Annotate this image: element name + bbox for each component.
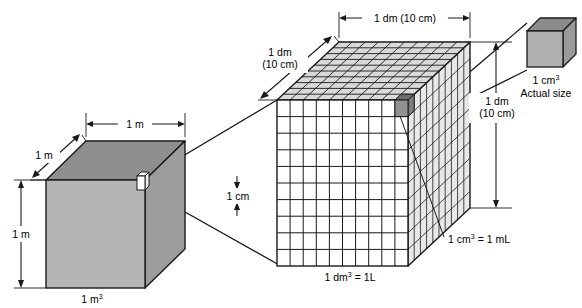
- meter-cube-width-dimension: 1 m: [86, 113, 185, 137]
- svg-text:1 cm3: 1 cm3: [533, 73, 560, 86]
- meter-cube-caption-text: 1 m: [81, 293, 99, 305]
- centimeter-cube-front-face: [527, 31, 563, 67]
- callout-text: 1 cm: [448, 233, 471, 245]
- figure-root: 1 m 1 m 1 m 1 m3: [0, 0, 582, 308]
- svg-text:1 dm3 = 1L: 1 dm3 = 1L: [325, 270, 376, 283]
- decimeter-cube-cell-label: 1 cm: [227, 190, 250, 202]
- meter-cube-front-face: [46, 180, 145, 288]
- meter-cube-sample-cube: [137, 172, 149, 190]
- decimeter-cube-width-dimension: 1 dm (10 cm): [339, 10, 470, 38]
- decimeter-cube-depth-label-line2: (10 cm): [262, 58, 298, 70]
- volume-units-diagram: 1 m 1 m 1 m 1 m3: [0, 0, 582, 308]
- meter-cube-height-dimension: 1 m: [5, 180, 46, 288]
- decimeter-cube-group: 1 dm (10 cm) 1 dm (10 cm) 1 dm (10 cm): [221, 10, 525, 283]
- meter-cube-width-label: 1 m: [126, 118, 144, 130]
- decimeter-cube-height-dimension: 1 dm (10 cm): [469, 42, 525, 208]
- centimeter-cube-caption: 1 cm3 Actual size: [521, 73, 572, 99]
- centimeter-caption-text: 1 cm: [533, 74, 556, 86]
- centimeter-cube-group: 1 cm3 Actual size: [521, 18, 576, 99]
- decimeter-cube-depth-label-line1: 1 dm: [268, 46, 292, 58]
- meter-cube-caption-sup: 3: [99, 292, 103, 301]
- highlighted-cubic-centimeter: [395, 94, 414, 116]
- svg-text:1 m3: 1 m3: [81, 292, 103, 305]
- meter-cube-group: 1 m 1 m 1 m 1 m3: [5, 113, 185, 305]
- centimeter-caption-sup: 3: [555, 73, 559, 82]
- callout-rest: = 1 mL: [475, 233, 510, 245]
- decimeter-cube-bottom-caption: 1 dm3 = 1L: [325, 270, 376, 283]
- meter-cube-depth-label: 1 m: [35, 149, 53, 161]
- cubic-centimeter-callout-label: 1 cm3 = 1 mL: [448, 232, 510, 245]
- decimeter-cube-height-label-line1: 1 dm: [485, 95, 509, 107]
- centimeter-caption-line2: Actual size: [521, 87, 572, 99]
- decimeter-bottom-caption-rest: = 1L: [352, 271, 376, 283]
- decimeter-bottom-caption-text: 1 dm: [325, 271, 349, 283]
- decimeter-cube-height-label-line2: (10 cm): [479, 107, 515, 119]
- svg-text:1 cm3 = 1 mL: 1 cm3 = 1 mL: [448, 232, 510, 245]
- decimeter-cube-width-label: 1 dm (10 cm): [374, 12, 436, 24]
- meter-cube-height-label: 1 m: [12, 228, 30, 240]
- meter-cube-caption: 1 m3: [81, 292, 103, 305]
- decimeter-cube-cell-dimension: 1 cm: [221, 176, 255, 216]
